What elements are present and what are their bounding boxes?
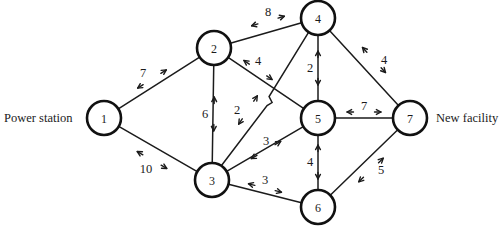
node-2[interactable]: 2 xyxy=(197,31,231,65)
edge-weight-3-4: 2 xyxy=(234,103,240,117)
edge-weight-4-5: 2 xyxy=(307,61,313,75)
edge-weight-2-3: 6 xyxy=(202,107,208,121)
edge-1-3 xyxy=(119,126,198,171)
edge-2-4 xyxy=(230,23,301,44)
edge-weight-4-7: 4 xyxy=(381,53,388,67)
edge-2-3 xyxy=(212,65,213,163)
edge-weight-3-5: 3 xyxy=(263,134,269,148)
edge-4-7 xyxy=(330,31,399,106)
network-diagram: 1234567 71068423324475 Power station New… xyxy=(0,0,504,233)
node-label-1: 1 xyxy=(101,112,107,126)
edge-weight-5-7: 7 xyxy=(361,99,367,113)
node-4[interactable]: 4 xyxy=(301,1,335,35)
edge-weight-2-4: 8 xyxy=(265,5,271,19)
network-graph-svg: 1234567 71068423324475 Power station New… xyxy=(0,0,504,233)
edges-layer xyxy=(118,23,398,203)
node-label-3: 3 xyxy=(209,174,215,188)
node-label-2: 2 xyxy=(211,42,217,56)
edge-weight-3-6: 3 xyxy=(262,173,268,187)
node-label-6: 6 xyxy=(315,201,321,215)
edge-1-2 xyxy=(118,57,199,109)
node-7[interactable]: 7 xyxy=(393,101,427,135)
node-5[interactable]: 5 xyxy=(301,101,335,135)
node-3[interactable]: 3 xyxy=(195,163,229,197)
edge-weight-5-6: 4 xyxy=(307,155,314,169)
arrow-heads-layer xyxy=(137,15,385,193)
edge-weight-6-7: 5 xyxy=(378,163,384,177)
node-6[interactable]: 6 xyxy=(301,190,335,224)
node-label-7: 7 xyxy=(407,112,413,126)
new-facility-label: New facility xyxy=(436,111,499,125)
edge-weight-1-2: 7 xyxy=(140,66,146,80)
edge-2-5 xyxy=(228,57,304,108)
node-label-5: 5 xyxy=(315,112,321,126)
edge-weight-1-3: 10 xyxy=(140,162,153,176)
node-1[interactable]: 1 xyxy=(87,101,121,135)
edge-weight-2-5: 4 xyxy=(255,54,262,68)
node-label-4: 4 xyxy=(315,12,321,26)
edge-6-7 xyxy=(330,130,398,195)
power-station-label: Power station xyxy=(4,111,73,125)
